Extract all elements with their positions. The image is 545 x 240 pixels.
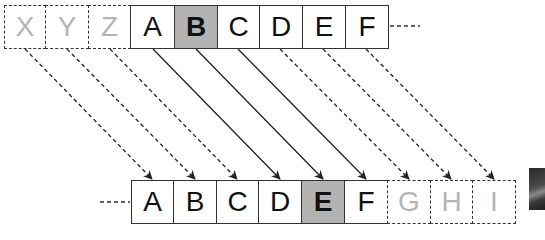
top-cell-Z: Z [88, 5, 131, 49]
bottom-cell-E: E [301, 180, 345, 224]
top-cell-C: C [217, 5, 260, 49]
arrow-Z-to-C [110, 49, 237, 179]
bottom-cell-F: F [344, 180, 388, 224]
arrow-X-to-A [25, 49, 152, 179]
top-cell-B: B [174, 5, 218, 49]
arrow-F-to-I [366, 49, 494, 179]
bottom-cell-A: A [131, 180, 174, 224]
bottom-cell-H: H [430, 180, 473, 224]
bottom-cell-G: G [387, 180, 431, 224]
arrow-C-to-F [238, 49, 366, 179]
top-cell-X: X [4, 5, 46, 49]
bottom-cell-C: C [216, 180, 259, 224]
top-cell-Y: Y [45, 5, 89, 49]
bottom-cell-D: D [258, 180, 302, 224]
cropped-photo-fragment [529, 168, 545, 210]
top-cell-A: A [130, 5, 175, 49]
arrow-D-to-G [280, 49, 409, 179]
arrow-E-to-H [323, 49, 451, 179]
arrow-Y-to-B [67, 49, 195, 179]
top-cell-D: D [259, 5, 303, 49]
bottom-cell-B: B [173, 180, 217, 224]
arrow-A-to-D [153, 49, 280, 179]
top-cell-F: F [345, 5, 389, 49]
bottom-cell-I: I [472, 180, 516, 224]
top-cell-E: E [302, 5, 346, 49]
arrow-B-to-E [196, 49, 323, 179]
